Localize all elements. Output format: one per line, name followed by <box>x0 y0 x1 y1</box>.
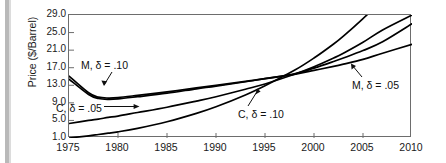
y-tick-label: 21.0 <box>26 44 66 54</box>
y-tick-label: 13.0 <box>26 79 66 89</box>
x-tick-label: 2000 <box>301 141 324 153</box>
y-tick-label: 29.0 <box>26 9 66 19</box>
annotation-m-delta-05: M, δ = .05 <box>352 79 399 91</box>
x-tick-label: 1980 <box>105 141 128 153</box>
y-tick-label: 17.0 <box>26 62 66 72</box>
y-tick-label: 5.0 <box>26 114 66 124</box>
x-axis-tick-labels: 19751980198519901995200020052010 <box>0 139 446 163</box>
x-tick-label: 1990 <box>203 141 226 153</box>
x-tick-label: 2010 <box>399 141 422 153</box>
chart-figure: Price ($/Barrel) 1.05.09.013.017.021.025… <box>0 0 446 163</box>
annotation-c-delta-10: C, δ = .10 <box>238 108 284 120</box>
x-tick-label: 2005 <box>350 141 373 153</box>
x-tick-label: 1995 <box>252 141 275 153</box>
annotation-c-delta-05: C, δ = .05 <box>56 102 102 114</box>
y-tick-label: 25.0 <box>26 27 66 37</box>
x-tick-label: 1985 <box>154 141 177 153</box>
annotation-m-delta-10: M, δ = .10 <box>81 59 128 71</box>
x-tick-label: 1975 <box>56 141 79 153</box>
